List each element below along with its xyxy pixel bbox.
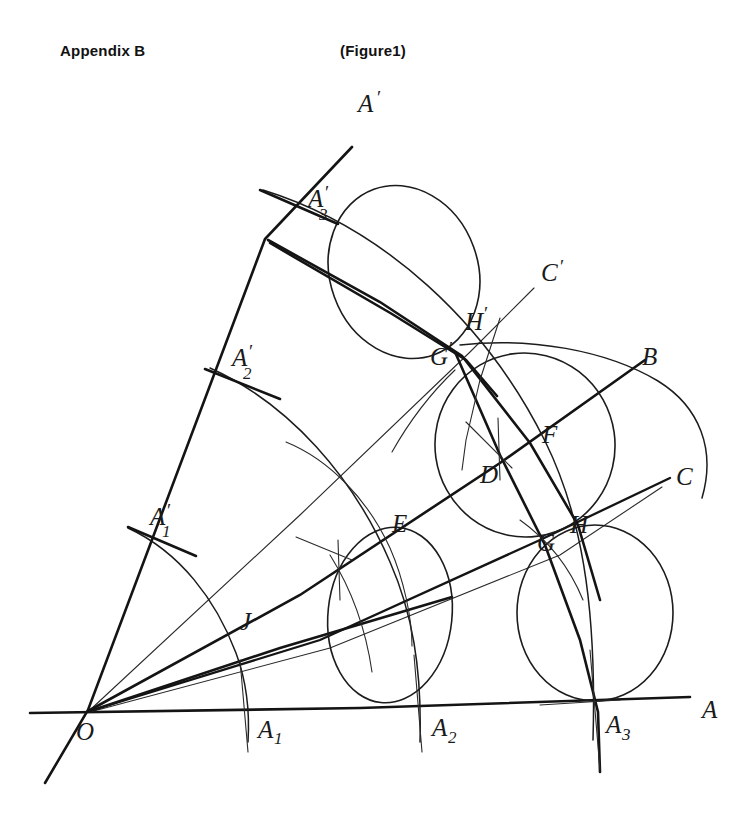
axis-tick-A1: [240, 660, 248, 752]
geometric-figure: A ′ A ′ 3 A ′ 2 A ′ 1 C ′ B C A O H ′ G …: [0, 0, 753, 821]
page-canvas: Appendix B (Figure1): [0, 0, 753, 821]
label-axis-A3-sub: 3: [621, 725, 631, 744]
label-D: D: [479, 461, 498, 488]
arc-radius-2: [210, 368, 420, 742]
label-G-prime: G: [430, 343, 448, 370]
label-A-prime-mark: ′: [377, 87, 381, 108]
label-axis-A2: A: [430, 714, 448, 741]
label-G-prime-mark: ′: [449, 338, 453, 359]
label-B: B: [642, 343, 657, 370]
label-A-prime-1-mark: ′: [167, 500, 171, 521]
line-Gprime-to-A3: [455, 352, 600, 772]
ray-O-Cprime: [90, 288, 534, 710]
label-axis-A2-sub: 2: [448, 728, 457, 747]
label-G: G: [537, 529, 555, 556]
label-F: F: [541, 421, 558, 448]
label-axis-A3: A: [604, 711, 622, 738]
label-A-prime-2-mark: ′: [249, 341, 253, 362]
label-A: A: [700, 696, 718, 723]
construction-arc-upper: [392, 370, 455, 452]
label-A-prime-2-sub: 2: [243, 364, 252, 383]
label-C-prime-mark: ′: [560, 256, 564, 277]
label-axis-A1: A: [256, 716, 274, 743]
label-E: E: [391, 510, 407, 537]
construction-tick-E1: [296, 537, 352, 560]
label-H-prime-mark: ′: [484, 303, 488, 324]
label-C-prime: C: [541, 259, 558, 286]
label-J: J: [240, 608, 253, 635]
label-H: H: [569, 511, 590, 538]
label-O: O: [76, 718, 94, 745]
ray-O-Aprime: [45, 147, 352, 783]
label-A-prime: A: [356, 90, 374, 117]
label-axis-A1-sub: 1: [274, 729, 283, 748]
label-A-prime-3-sub: 3: [318, 205, 328, 224]
label-A-prime-1-sub: 1: [162, 522, 171, 541]
label-H-prime: H: [464, 308, 485, 335]
label-C: C: [676, 463, 693, 490]
label-A-prime-3-mark: ′: [325, 182, 329, 203]
